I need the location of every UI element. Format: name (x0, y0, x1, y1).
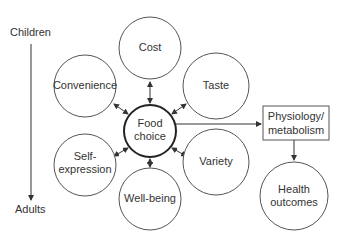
food-choice-label-2: choice (134, 130, 166, 142)
self-expression-label-2: expression (58, 163, 111, 175)
well-being-label: Well-being (124, 192, 176, 204)
self-expression-connector (114, 148, 128, 156)
food-choice-label-1: Food (137, 117, 162, 129)
health-label-2: outcomes (270, 196, 318, 208)
food-choice-diagram: Children Adults Cost Convenience Taste S… (0, 0, 342, 239)
age-timeline: Children Adults (10, 26, 51, 215)
physiology-label-2: metabolism (268, 124, 324, 136)
children-label: Children (10, 26, 51, 38)
convenience-label: Convenience (53, 79, 117, 91)
adults-label: Adults (15, 203, 46, 215)
variety-label: Variety (199, 155, 233, 167)
taste-label: Taste (203, 79, 229, 91)
convenience-connector (114, 104, 128, 114)
physiology-label-1: Physiology/ (268, 110, 325, 122)
cost-label: Cost (139, 41, 162, 53)
self-expression-label-1: Self- (74, 150, 97, 162)
health-label-1: Health (278, 183, 310, 195)
taste-connector (172, 104, 186, 114)
